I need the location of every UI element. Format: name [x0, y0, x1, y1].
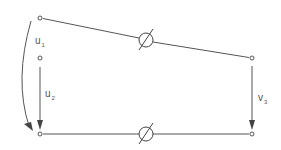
top-meter-icon	[139, 29, 153, 50]
u1-arrow	[22, 21, 33, 131]
u2-arrow	[37, 67, 43, 130]
terminal-bottom-right	[250, 132, 254, 136]
label-u2-subscript: 2	[52, 95, 55, 101]
label-u2-main: u	[45, 88, 51, 99]
terminal-bottom-left	[38, 132, 42, 136]
circuit-svg	[0, 0, 281, 150]
label-u2: u2	[45, 89, 55, 99]
v3-arrow	[249, 66, 255, 130]
label-u1-subscript: 1	[42, 42, 45, 48]
terminal-top-left	[38, 16, 42, 20]
label-u1-main: u	[35, 35, 41, 46]
top-wire-right-segment	[153, 42, 249, 58]
top-wire-left-segment	[43, 19, 139, 39]
label-u1: u1	[35, 36, 45, 46]
bottom-meter-icon	[139, 123, 153, 144]
terminal-middle-left	[38, 56, 42, 60]
label-v3-main: v	[258, 92, 263, 103]
label-v3: v3	[258, 93, 267, 103]
circuit-diagram: u1 u2 v3	[0, 0, 281, 150]
terminal-top-right	[250, 56, 254, 60]
label-v3-subscript: 3	[264, 99, 267, 105]
